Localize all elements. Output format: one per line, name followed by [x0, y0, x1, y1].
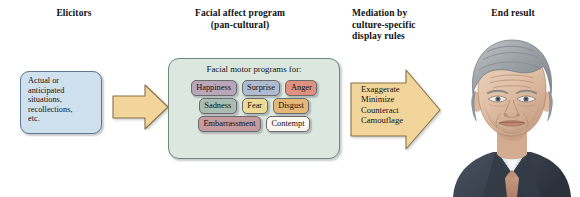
emotion-row: Embarrassment Contempt	[198, 116, 310, 132]
end-result-portrait	[443, 28, 580, 197]
emotion-chip-fear: Fear	[242, 98, 268, 114]
elicitor-box-text: Actual or anticipated situations, recoll…	[28, 76, 104, 124]
emotion-chip-surprise: Surprise	[242, 80, 281, 96]
heading-end-result: End result	[452, 8, 574, 20]
emotion-row: Happiness Surprise Anger	[191, 80, 318, 96]
emotion-chip-grid: Happiness Surprise Anger Sadness Fear Di…	[171, 80, 337, 132]
portrait-illustration	[443, 28, 580, 197]
emotion-chip-embarrassment: Embarrassment	[198, 116, 261, 132]
heading-facial-affect-program: Facial affect program (pan-cultural)	[160, 8, 320, 31]
arrow-elicitors-to-program	[112, 84, 170, 130]
emotion-row: Sadness Fear Disgust	[199, 98, 310, 114]
program-box-caption: Facial motor programs for:	[168, 64, 340, 74]
heading-elicitors: Elicitors	[18, 8, 130, 20]
emotion-chip-contempt: Contempt	[266, 116, 310, 132]
emotion-chip-anger: Anger	[285, 80, 317, 96]
emotion-chip-happiness: Happiness	[191, 80, 237, 96]
diagram-canvas: Elicitors Facial affect program (pan-cul…	[0, 0, 580, 197]
display-rules-text: Exaggerate Minimize Counteract Camouflag…	[361, 84, 435, 126]
emotion-chip-sadness: Sadness	[199, 98, 237, 114]
emotion-chip-disgust: Disgust	[273, 98, 310, 114]
